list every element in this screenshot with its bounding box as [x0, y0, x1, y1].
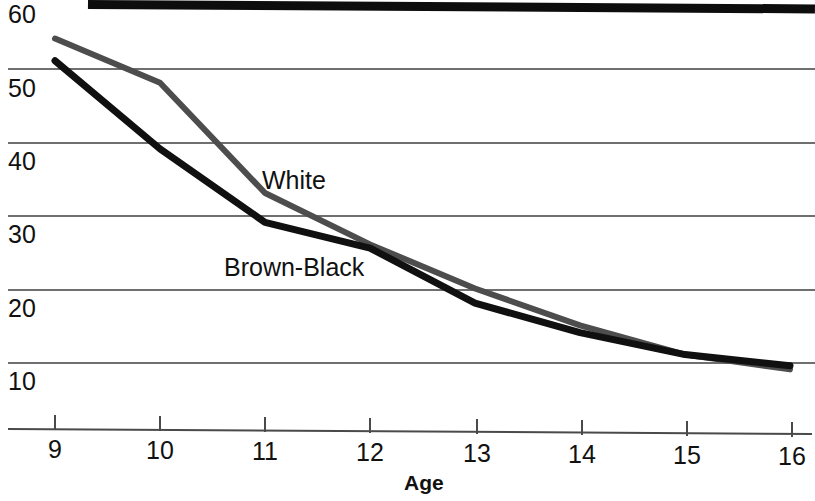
x-tick-label-10: 10: [140, 438, 180, 463]
chart-figure: 60 50 40 30 20 10 White Brown-Black 9 10…: [0, 0, 815, 501]
x-tick-label-13: 13: [457, 441, 497, 466]
x-tick-15: [686, 421, 688, 436]
x-tick-12: [369, 418, 371, 433]
plot-area: 60 50 40 30 20 10 White Brown-Black 9 10…: [0, 0, 815, 501]
x-tick-16: [791, 422, 793, 437]
x-tick-label-11: 11: [245, 439, 285, 464]
x-tick-13: [476, 419, 478, 434]
x-tick-9: [54, 415, 56, 430]
x-tick-label-9: 9: [35, 437, 75, 462]
x-tick-10: [159, 416, 161, 431]
x-tick-11: [264, 417, 266, 432]
x-axis-title: Age: [404, 472, 444, 493]
x-tick-14: [581, 420, 583, 435]
x-axis-line: [0, 0, 815, 501]
x-tick-label-14: 14: [562, 442, 602, 467]
x-tick-label-16: 16: [772, 444, 812, 469]
x-tick-label-12: 12: [350, 440, 390, 465]
x-tick-label-15: 15: [667, 443, 707, 468]
